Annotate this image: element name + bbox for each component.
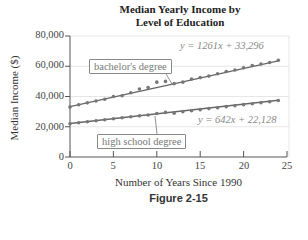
x-axis-label: Number of Years Since 1990 bbox=[70, 176, 287, 188]
x-tick-25: 25 bbox=[277, 160, 297, 171]
x-tick-0: 0 bbox=[60, 160, 80, 171]
y-tick-60000: 60,000 bbox=[35, 59, 64, 70]
x-tick-15: 15 bbox=[190, 160, 210, 171]
bachelor-trendline-equation: y = 1261x + 33,296 bbox=[180, 40, 264, 51]
high-school-degree-label: high school degree bbox=[97, 134, 186, 149]
figure-caption: Figure 2-15 bbox=[70, 192, 287, 204]
y-axis-label: Median Income ($) bbox=[8, 48, 20, 148]
high-school-trendline-equation: y = 642x + 22,128 bbox=[198, 114, 277, 125]
y-tick-20000: 20,000 bbox=[35, 121, 64, 132]
bachelor-degree-label: bachelor's degree bbox=[89, 59, 172, 74]
x-tick-20: 20 bbox=[234, 160, 254, 171]
y-tick-40000: 40,000 bbox=[35, 90, 64, 101]
x-tick-5: 5 bbox=[103, 160, 123, 171]
x-tick-10: 10 bbox=[147, 160, 167, 171]
y-tick-80000: 80,000 bbox=[35, 29, 64, 40]
